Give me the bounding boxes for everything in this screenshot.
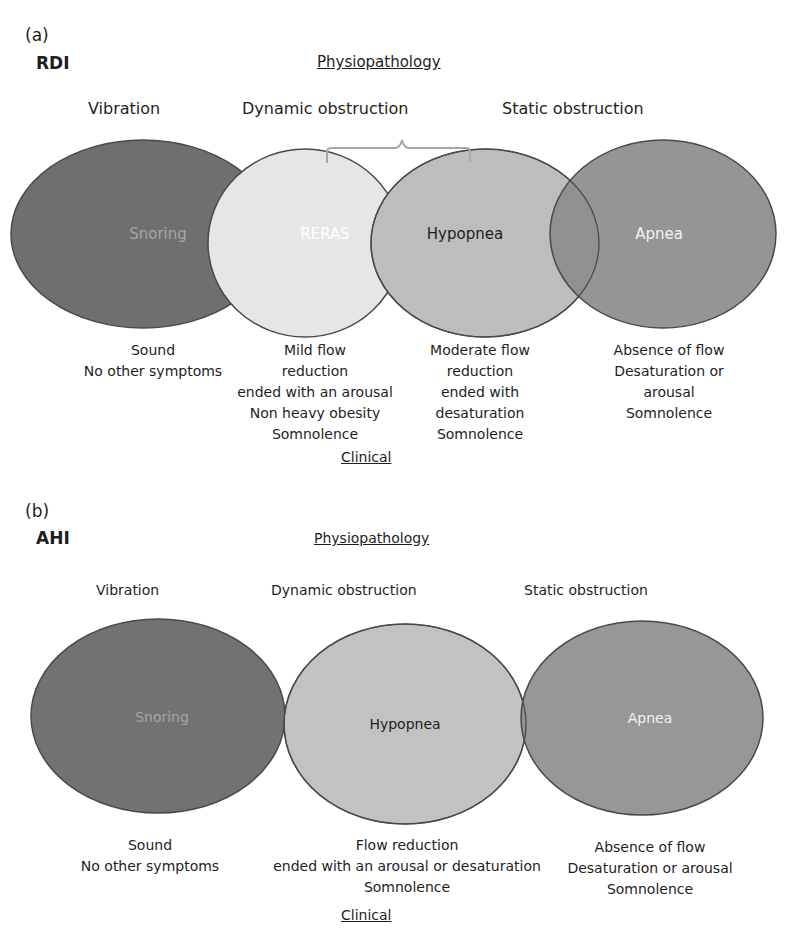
snoring-label-b: Snoring bbox=[135, 709, 189, 725]
panel-a-category-dynamic-obstruction: Dynamic obstruction bbox=[242, 99, 408, 118]
panel-b-category-static-obstruction: Static obstruction bbox=[524, 582, 648, 598]
panel-a-category-static-obstruction: Static obstruction bbox=[502, 99, 644, 118]
panel-b-category-dynamic-obstruction: Dynamic obstruction bbox=[271, 582, 417, 598]
panel-a-category-vibration: Vibration bbox=[88, 99, 160, 118]
panel-a-reras-description: Mild flow reduction ended with an arousa… bbox=[225, 340, 405, 445]
panel-b-hypopnea-description: Flow reduction ended with an arousal or … bbox=[262, 835, 552, 898]
panel-a-ellipses: Snoring RERAS Hypopnea Apnea bbox=[11, 140, 776, 337]
panel-b-letter: (b) bbox=[25, 501, 49, 521]
panel-a-hypopnea-description: Moderate flow reduction ended with desat… bbox=[410, 340, 550, 445]
panel-a-physiopathology-title: Physiopathology bbox=[317, 53, 441, 71]
panel-b-snoring-description: Sound No other symptoms bbox=[60, 835, 240, 877]
hypopnea-label-a: Hypopnea bbox=[427, 225, 503, 243]
panel-a-metric-rdi: RDI bbox=[36, 53, 70, 73]
panel-a-apnea-description: Absence of flow Desaturation or arousal … bbox=[599, 340, 739, 424]
panel-b-metric-ahi: AHI bbox=[36, 528, 70, 548]
panel-a-clinical-title: Clinical bbox=[341, 449, 391, 465]
panel-a-snoring-description: Sound No other symptoms bbox=[68, 340, 238, 382]
panel-a-letter: (a) bbox=[25, 25, 49, 45]
panel-b-clinical-title: Clinical bbox=[341, 907, 391, 923]
snoring-label-a: Snoring bbox=[129, 225, 187, 243]
venn-diagram: Snoring RERAS Hypopnea Apnea Snoring Hyp… bbox=[0, 0, 794, 952]
panel-b-apnea-description: Absence of flow Desaturation or arousal … bbox=[555, 837, 745, 900]
panel-b-category-vibration: Vibration bbox=[96, 582, 159, 598]
apnea-label-a: Apnea bbox=[635, 225, 683, 243]
panel-b-physiopathology-title: Physiopathology bbox=[314, 530, 429, 546]
hypopnea-label-b: Hypopnea bbox=[369, 716, 440, 732]
apnea-label-b: Apnea bbox=[628, 710, 673, 726]
reras-label-a: RERAS bbox=[300, 225, 350, 243]
panel-b-ellipses: Snoring Hypopnea Apnea bbox=[31, 619, 763, 824]
